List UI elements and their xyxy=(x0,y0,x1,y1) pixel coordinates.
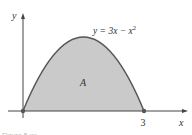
x3-point xyxy=(142,109,146,113)
figure-caption: Figure 5.xx xyxy=(2,132,37,135)
y-axis-arrow-icon xyxy=(21,13,25,19)
x-tick-3: 3 xyxy=(141,117,146,128)
equation-label: y = 3x − x2 xyxy=(92,24,136,36)
region-label-A: A xyxy=(79,77,87,88)
origin-point xyxy=(21,109,25,113)
y-axis-label: y xyxy=(11,10,17,21)
area-under-parabola-figure: y x 3 A y = 3x − x2 Figure 5.xx xyxy=(0,0,192,135)
x-axis-label: x xyxy=(178,117,184,128)
x-axis-arrow-icon xyxy=(182,109,188,113)
